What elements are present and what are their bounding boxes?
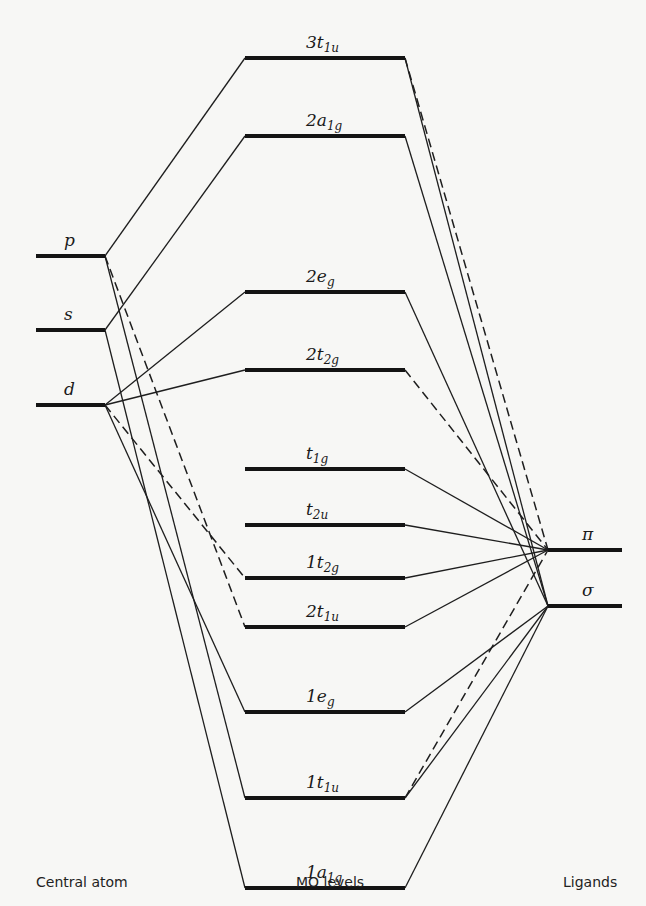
ligand-orbital-label: π	[581, 524, 594, 544]
mo-level-label: 2eg	[305, 266, 335, 289]
connection-p-3t1u	[105, 58, 245, 256]
caption-ligands: Ligands	[563, 874, 617, 890]
connection-1t1u-pi	[405, 550, 548, 798]
caption-mo-levels: MO levels	[296, 874, 364, 890]
mo-level-label: 2a1g	[305, 110, 343, 133]
central-orbital-label: s	[64, 304, 73, 324]
connection-lines	[105, 58, 548, 888]
mo-level-label: 1t2g	[306, 552, 339, 575]
mo-level-label: t1g	[306, 443, 328, 466]
mo-level-label: 2t1u	[305, 601, 339, 624]
connection-3t1u-pi	[405, 58, 548, 550]
connection-1t2g-pi	[405, 550, 548, 578]
energy-levels	[36, 58, 622, 888]
ligand-orbital-label: σ	[582, 580, 594, 600]
connection-2eg-sigma	[405, 292, 548, 606]
connection-2a1g-sigma	[405, 136, 548, 606]
mo-level-label: t2u	[306, 499, 328, 522]
mo-level-label: 2t2g	[305, 344, 339, 367]
connection-1a1g-sigma	[405, 606, 548, 888]
mo-level-label: 3t1u	[306, 32, 339, 55]
central-orbital-label: d	[64, 379, 75, 399]
mo-diagram: psd3t1u2a1g2eg2t2gt1gt2u1t2g2t1u1eg1t1u1…	[0, 0, 646, 906]
connection-p-2t1u	[105, 256, 245, 627]
central-orbital-label: p	[64, 230, 75, 250]
connection-p-1t1u	[105, 256, 245, 798]
connection-1eg-sigma	[405, 606, 548, 712]
mo-level-label: 1t1u	[306, 772, 339, 795]
caption-central-atom: Central atom	[36, 874, 128, 890]
mo-level-label: 1eg	[306, 686, 335, 709]
level-labels: psd3t1u2a1g2eg2t2gt1gt2u1t2g2t1u1eg1t1u1…	[64, 32, 594, 885]
connection-1t1u-sigma	[405, 606, 548, 798]
connection-d-1t2g	[105, 405, 245, 578]
connection-s-2a1g	[105, 136, 245, 330]
connection-d-1eg	[105, 405, 245, 712]
connection-s-1a1g	[105, 330, 245, 888]
